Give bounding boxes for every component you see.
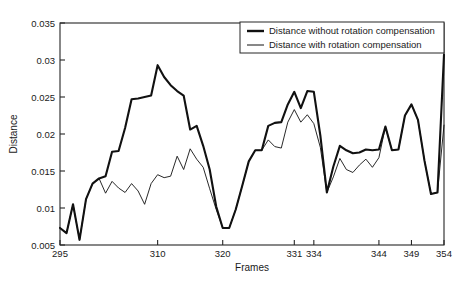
x-axis-title: Frames: [235, 262, 269, 273]
y-tick-label: 0.01: [37, 203, 56, 214]
x-tick-label: 349: [404, 248, 420, 259]
y-tick-label: 0.025: [31, 92, 55, 103]
x-tick-label: 344: [371, 248, 387, 259]
chart-container: 0.0050.010.0150.020.0250.030.035 2953103…: [0, 0, 468, 283]
y-axis-title: Distance: [8, 114, 19, 153]
series-line: [60, 55, 444, 240]
x-tick-label: 334: [306, 248, 322, 259]
x-tick-label: 295: [52, 248, 68, 259]
series-line: [60, 104, 444, 239]
series-layer: [60, 55, 444, 240]
chart-legend: Distance without rotation compensationDi…: [240, 22, 444, 53]
legend-label: Distance without rotation compensation: [269, 25, 435, 36]
x-tick-label: 320: [215, 248, 231, 259]
y-tick-label: 0.015: [31, 166, 55, 177]
y-tick-label: 0.03: [37, 55, 56, 66]
x-tick-label: 354: [436, 248, 452, 259]
y-tick-label: 0.035: [31, 18, 55, 29]
legend-label: Distance with rotation compensation: [269, 39, 422, 50]
x-axis-ticks: 295310320331334344349354: [52, 240, 452, 259]
x-tick-label: 331: [286, 248, 302, 259]
y-tick-label: 0.02: [37, 129, 56, 140]
distance-line-chart: 0.0050.010.0150.020.0250.030.035 2953103…: [0, 0, 468, 283]
x-tick-label: 310: [150, 248, 166, 259]
